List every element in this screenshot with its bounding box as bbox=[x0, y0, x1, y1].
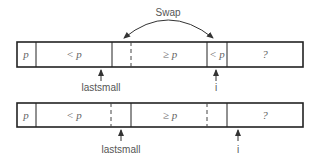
cell-greater-equal: ≥ p bbox=[163, 48, 178, 60]
swap-arrow: Swap bbox=[124, 7, 213, 38]
cell-less: < p bbox=[66, 109, 82, 121]
array-row-1: p < p ≥ p < p ? lastsmall i bbox=[17, 42, 303, 93]
cell-greater-equal: ≥ p bbox=[163, 109, 178, 121]
pointer-lastsmall: lastsmall bbox=[102, 144, 141, 155]
cell-less: < p bbox=[66, 48, 82, 60]
cell-less: < p bbox=[209, 48, 225, 60]
pointer-i: i bbox=[237, 144, 239, 155]
pointer-lastsmall: lastsmall bbox=[82, 82, 121, 93]
cell-unknown: ? bbox=[262, 48, 268, 60]
array-row-2: p < p ≥ p ? lastsmall i bbox=[17, 103, 303, 155]
swap-label: Swap bbox=[155, 7, 180, 18]
cell-pivot: p bbox=[22, 109, 29, 121]
cell-unknown: ? bbox=[262, 109, 268, 121]
cell-pivot: p bbox=[22, 48, 29, 60]
partition-diagram: Swap p < p ≥ p < p ? lastsmall i p < p ≥… bbox=[0, 0, 314, 165]
pointer-i: i bbox=[215, 82, 217, 93]
